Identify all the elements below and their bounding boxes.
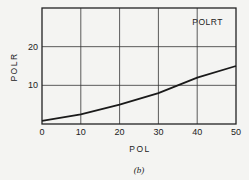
- y-tick-labels: 1020: [28, 42, 38, 91]
- x-tick-labels: 01020304050: [39, 127, 241, 137]
- x-tick-label: 20: [115, 127, 125, 137]
- figure-caption: (b): [134, 165, 145, 175]
- x-axis-label: POL: [129, 144, 151, 154]
- x-tick-label: 40: [192, 127, 202, 137]
- chart: 01020304050 1020 POLRT POLR POL (b): [0, 0, 249, 180]
- x-tick-label: 30: [153, 127, 163, 137]
- y-tick-label: 20: [28, 42, 38, 52]
- series-line-polrt: [42, 66, 236, 121]
- x-tick-label: 10: [76, 127, 86, 137]
- y-tick-label: 10: [28, 80, 38, 90]
- y-axis-label: POLR: [9, 52, 19, 81]
- annotation-polrt: POLRT: [192, 17, 223, 27]
- x-tick-label: 0: [39, 127, 44, 137]
- x-tick-label: 50: [231, 127, 241, 137]
